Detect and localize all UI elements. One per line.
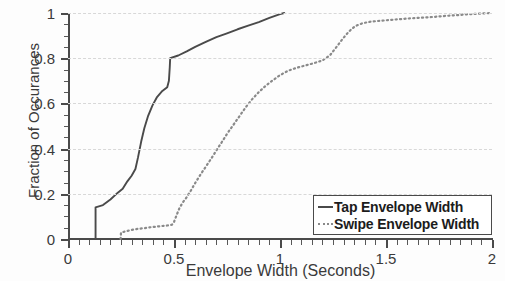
y-tick-major xyxy=(61,103,68,105)
y-tick-major xyxy=(61,149,68,151)
x-tick-minor xyxy=(481,240,482,245)
gridline xyxy=(68,103,492,105)
legend-label-swipe: Swipe Envelope Width xyxy=(334,216,479,232)
x-tick-minor xyxy=(301,240,302,245)
x-tick-minor xyxy=(89,240,90,245)
x-tick-major xyxy=(492,240,494,248)
x-tick-minor xyxy=(344,240,345,245)
x-tick-major xyxy=(174,240,176,248)
x-tick-minor xyxy=(110,240,111,245)
x-tick-minor xyxy=(185,240,186,245)
x-tick-minor xyxy=(238,240,239,245)
x-tick-minor xyxy=(195,240,196,245)
y-tick-major xyxy=(61,239,68,241)
x-tick-minor xyxy=(142,240,143,245)
x-tick-minor xyxy=(291,240,292,245)
x-axis-ticks xyxy=(68,240,493,249)
y-tick-label: 1 xyxy=(47,5,55,22)
chart-figure: Fraction of Occurances 00.20.40.60.81 00… xyxy=(0,0,505,281)
x-tick-minor xyxy=(269,240,270,245)
legend-label-tap: Tap Envelope Width xyxy=(334,199,463,215)
y-axis-tick-labels: 00.20.40.60.81 xyxy=(0,13,55,240)
x-tick-minor xyxy=(100,240,101,245)
gridline xyxy=(68,13,492,15)
legend-item-tap: Tap Envelope Width xyxy=(317,198,491,215)
y-tick-label: 0.2 xyxy=(34,185,55,202)
gridline xyxy=(68,58,492,60)
x-tick-major xyxy=(68,240,70,248)
x-tick-minor xyxy=(428,240,429,245)
y-tick-major xyxy=(61,13,68,15)
y-tick-major xyxy=(61,58,68,60)
x-tick-major xyxy=(386,240,388,248)
x-tick-minor xyxy=(333,240,334,245)
x-tick-minor xyxy=(397,240,398,245)
legend-item-swipe: Swipe Envelope Width xyxy=(317,215,491,232)
x-tick-minor xyxy=(418,240,419,245)
x-tick-minor xyxy=(365,240,366,245)
y-tick-label: 0 xyxy=(47,231,55,248)
x-tick-minor xyxy=(354,240,355,245)
y-axis-ticks xyxy=(58,13,68,240)
x-tick-major xyxy=(280,240,282,248)
x-tick-minor xyxy=(439,240,440,245)
legend-line-dotted-icon xyxy=(317,219,334,229)
x-tick-minor xyxy=(163,240,164,245)
x-tick-minor xyxy=(79,240,80,245)
x-axis-title: Envelope Width (Seconds) xyxy=(68,262,493,280)
x-tick-minor xyxy=(460,240,461,245)
x-tick-minor xyxy=(216,240,217,245)
legend-line-solid-icon xyxy=(317,202,334,212)
x-tick-minor xyxy=(153,240,154,245)
x-tick-minor xyxy=(248,240,249,245)
x-tick-minor xyxy=(206,240,207,245)
x-tick-minor xyxy=(471,240,472,245)
x-tick-minor xyxy=(375,240,376,245)
x-tick-minor xyxy=(227,240,228,245)
series-line xyxy=(96,13,285,239)
chart-legend: Tap Envelope Width Swipe Envelope Width xyxy=(313,195,492,235)
y-tick-label: 0.4 xyxy=(34,140,55,157)
x-tick-minor xyxy=(322,240,323,245)
x-tick-minor xyxy=(450,240,451,245)
x-tick-minor xyxy=(132,240,133,245)
y-tick-major xyxy=(61,194,68,196)
x-tick-minor xyxy=(259,240,260,245)
y-tick-label: 0.8 xyxy=(34,50,55,67)
x-tick-minor xyxy=(407,240,408,245)
y-tick-label: 0.6 xyxy=(34,95,55,112)
gridline xyxy=(68,149,492,151)
x-tick-minor xyxy=(121,240,122,245)
x-tick-minor xyxy=(312,240,313,245)
